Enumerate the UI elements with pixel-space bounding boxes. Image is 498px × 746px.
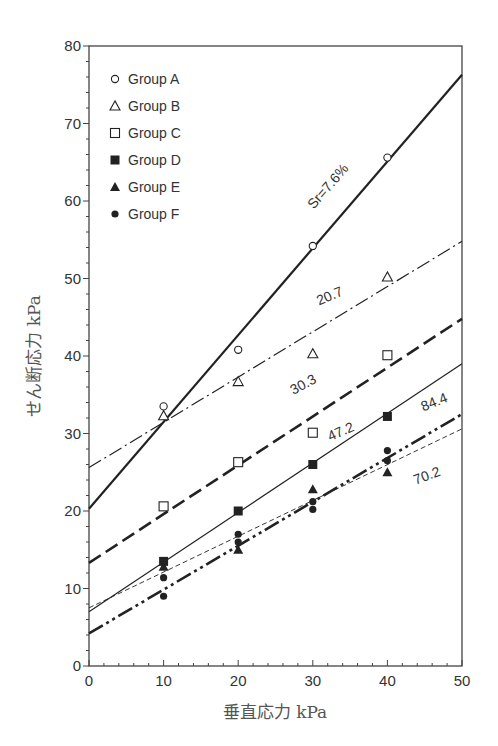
x-tick-label: 10 [155,672,172,689]
data-point [308,349,318,358]
fit-line-label: Sr=7.6% [304,160,352,211]
data-point [309,242,316,249]
data-point [233,377,243,386]
fit-line-label: 20.7 [314,283,346,308]
y-tick-label: 40 [64,347,81,364]
data-point [159,502,168,511]
x-tick-label: 0 [85,672,93,689]
line-labels: Sr=7.6%20.730.347.284.470.2 [287,160,450,487]
x-tick-label: 40 [379,672,396,689]
legend-item-label: Group C [128,125,181,141]
data-point [234,458,243,467]
fit-line-label: 47.2 [325,418,357,444]
data-point [384,447,391,454]
x-tick-label: 20 [230,672,247,689]
data-point [159,411,169,420]
data-points [159,154,393,600]
fit-line-label: 84.4 [418,389,449,414]
y-tick-label: 50 [64,270,81,287]
data-point [235,538,242,545]
data-point [160,593,167,600]
legend: Group AGroup BGroup CGroup DGroup EGroup… [110,71,181,222]
data-point [308,484,318,493]
y-tick-label: 0 [73,657,81,674]
y-tick-label: 80 [64,37,81,54]
data-point [160,403,167,410]
data-point [384,457,391,464]
data-point [383,412,392,421]
data-point [235,531,242,538]
legend-item-label: Group E [128,179,180,195]
data-point [235,346,242,353]
fit-line [89,364,462,612]
data-point [160,574,167,581]
data-point [308,428,317,437]
data-point [309,506,316,513]
x-tick-label: 50 [454,672,471,689]
x-tick-label: 30 [304,672,321,689]
data-point [384,154,391,161]
x-axis-title: 垂直応力 kPa [223,702,328,722]
fit-line [89,319,462,563]
shear-strength-chart: 0102030405001020304050607080 Sr=7.6%20.7… [0,0,498,746]
y-tick-label: 10 [64,580,81,597]
fit-line [89,241,462,467]
y-axis-title: せん断応力 kPa [24,295,44,417]
fit-line-label: 70.2 [411,463,442,487]
legend-item-label: Group A [128,71,180,87]
fit-line-label: 30.3 [287,371,319,398]
data-point [233,545,243,554]
legend-item-label: Group B [128,98,180,114]
y-tick-label: 30 [64,425,81,442]
y-tick-label: 70 [64,115,81,132]
fit-line [89,414,462,633]
legend-item-label: Group F [128,206,179,222]
y-tick-label: 60 [64,192,81,209]
data-point [309,498,316,505]
legend-item-label: Group D [128,152,181,168]
data-point [382,467,392,476]
data-point [308,460,317,469]
data-point [383,351,392,360]
y-tick-label: 20 [64,502,81,519]
data-point [234,507,243,516]
fit-line [89,429,462,608]
data-point [382,272,392,281]
